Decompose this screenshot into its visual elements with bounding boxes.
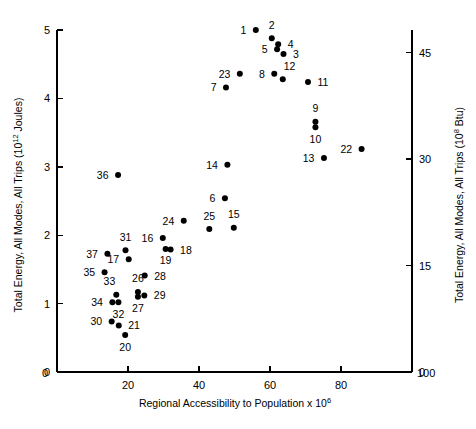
data-point-marker [237,71,243,77]
data-point-marker [116,322,122,328]
data-point: 12 [280,60,296,83]
data-point-marker [123,247,129,253]
data-point: 15 [228,208,240,231]
left-tick-label: 3 [44,161,50,173]
data-point: 25 [203,210,215,233]
data-point-label: 35 [83,266,95,278]
bottom-tick-label: 100 [417,367,435,379]
right-axis-title-tail: Btu) [453,107,465,129]
data-point: 23 [219,68,243,80]
data-point-marker [126,256,132,262]
data-point: 26 [132,272,144,295]
data-point-label: 31 [120,231,132,243]
data-point-marker [224,162,230,168]
data-point-label: 2 [269,19,275,31]
data-point-label: 20 [119,341,131,353]
data-point: 1 [240,24,258,36]
data-point-marker [122,332,128,338]
data-point-marker [253,27,259,33]
data-point-label: 12 [284,60,296,72]
data-point-label: 33 [104,275,116,287]
bottom-tick-label: 40 [193,379,205,391]
data-point-label: 22 [340,143,352,155]
data-point-label: 3 [293,48,299,60]
data-point-label: 36 [97,169,109,181]
data-point-label: 11 [317,76,328,88]
data-point-marker [271,71,277,77]
data-point-label: 8 [259,68,265,80]
data-point: 31 [120,231,132,254]
x-axis-title: Regional Accessibility to Population x 1… [139,396,331,409]
data-point-label: 16 [142,232,154,244]
data-point-marker [223,84,229,90]
svg-text:Total Energy, All Modes, All T: Total Energy, All Modes, All Trips (108 … [452,107,465,303]
data-point-marker [115,172,121,178]
svg-text:Regional Accessibility to Popu: Regional Accessibility to Population x 1… [139,396,331,409]
data-point: 2 [269,19,275,42]
data-point: 36 [97,169,121,181]
data-point: 11 [305,76,329,88]
data-point-marker [109,318,115,324]
right-tick-label: 30 [419,153,431,165]
data-point-marker [280,51,286,57]
left-tick-label: 2 [44,229,50,241]
data-point-marker [274,46,280,52]
data-point-label: 1 [240,24,246,36]
data-point: 20 [119,332,131,353]
x-axis-title-text: Regional Accessibility to Population x 1… [139,397,327,409]
right-tick-label: 15 [419,260,431,272]
data-point-label: 13 [303,152,315,164]
data-point: 33 [104,275,120,298]
data-point: 16 [142,232,166,244]
svg-text:Total Energy, All Modes, All T: Total Energy, All Modes, All Trips (1012… [11,98,24,313]
data-point-marker [206,226,212,232]
left-axis-title: Total Energy, All Modes, All Trips (1012… [11,98,24,313]
data-point: 21 [116,319,140,331]
scatter-plot-figure: 012345 0153045 020406080100 Total Energy… [0,0,476,429]
data-point-marker [321,155,327,161]
data-point-marker [141,292,147,298]
data-point: 7 [211,81,229,93]
data-point-label: 17 [108,253,120,265]
data-point-marker [305,79,311,85]
data-point-marker [115,299,121,305]
right-tick-label: 45 [419,47,431,59]
data-point-label: 10 [310,133,322,145]
data-point-marker [109,299,115,305]
data-point: 13 [303,152,327,164]
data-point: 30 [90,315,114,327]
bottom-tick-label: 80 [335,379,347,391]
data-point-label: 37 [86,248,98,260]
data-point-marker [113,292,119,298]
data-point-label: 19 [160,254,172,266]
data-point-label: 26 [132,272,144,284]
data-point-label: 29 [154,289,166,301]
data-point: 29 [141,289,165,301]
data-point-label: 25 [203,210,215,222]
data-point-label: 30 [90,315,102,327]
data-point-marker [160,235,166,241]
data-point-label: 9 [313,102,319,114]
data-point: 28 [142,270,166,282]
data-point-label: 21 [128,319,140,331]
data-point-label: 34 [91,296,103,308]
right-axis-ticks: 0153045 [406,47,431,378]
data-point-marker [231,225,237,231]
data-point-marker [359,146,365,152]
left-tick-label: 5 [44,24,50,36]
data-point: 17 [108,253,132,265]
left-axis-title-tail: Joules) [12,98,24,135]
data-point: 14 [206,159,230,171]
data-point-label: 32 [113,308,125,320]
x-axis-title-exponent: 6 [327,396,331,405]
left-axis-title-text: Total Energy, All Modes, All Trips (10 [12,143,24,313]
right-axis-title-text: Total Energy, All Modes, All Trips (10 [453,133,465,303]
data-point-marker [181,218,187,224]
bottom-tick-label: 0 [42,367,48,379]
bottom-tick-label: 20 [122,379,134,391]
data-point-label: 24 [163,215,175,227]
data-point-label: 15 [228,208,240,220]
data-point-marker [312,119,318,125]
data-point-marker [168,247,174,253]
data-point: 10 [310,124,322,145]
